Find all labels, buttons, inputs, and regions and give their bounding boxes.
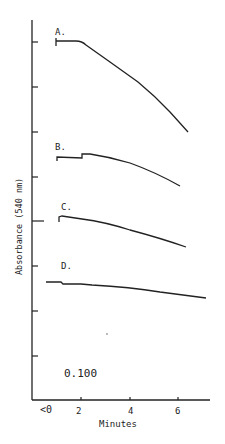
y-axis-ticks: [32, 42, 44, 356]
stray-dot: [106, 333, 107, 334]
curve-d-label: D.: [61, 261, 72, 271]
x-tick-label-4: 4: [128, 406, 133, 416]
curve-a-label: A.: [55, 27, 66, 37]
curve-a: [56, 38, 188, 132]
y-axis-title: Absorbance (540 nm): [14, 178, 24, 275]
x-tick-label-6: 6: [175, 406, 180, 416]
x-tick-label-0: <0: [40, 404, 52, 415]
curve-d: [46, 282, 206, 298]
scale-annotation: 0.100: [64, 367, 97, 380]
curve-b: [57, 154, 180, 186]
curve-c: [59, 216, 186, 247]
absorbance-chart: <0 2 4 6 Minutes Absorbance (540 nm) A. …: [0, 0, 225, 444]
x-axis-title: Minutes: [99, 419, 137, 429]
curve-b-label: B.: [55, 142, 66, 152]
x-tick-label-2: 2: [76, 406, 81, 416]
curve-c-label: C.: [61, 202, 72, 212]
